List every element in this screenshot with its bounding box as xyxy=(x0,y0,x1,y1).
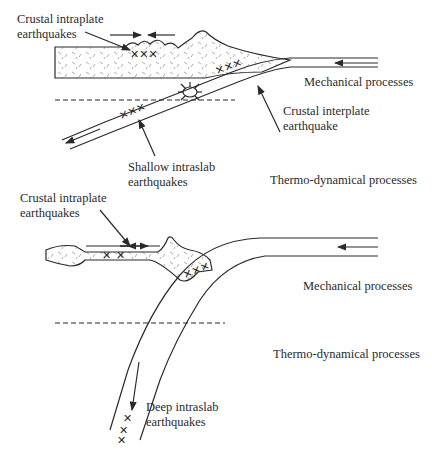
label-top-mechanical: Mechanical processes xyxy=(304,75,413,90)
label-bottom-crustal-intraplate: Crustal intraplate earthquakes xyxy=(20,191,106,221)
top-panel xyxy=(55,31,378,156)
label-top-thermo: Thermo-dynamical processes xyxy=(270,173,417,188)
svg-text:✕: ✕ xyxy=(117,434,126,447)
subduction-diagram: ✕✕✕ ✕✕✕ ✕✕✕ ✕ ✕ ✕✕✕ ✕ ✕ ✕ xyxy=(0,0,432,466)
label-top-shallow-intraslab: Shallow intraslab earthquakes xyxy=(128,160,215,190)
label-bottom-deep-intraslab: Deep intraslab earthquakes xyxy=(146,400,219,430)
svg-text:✕: ✕ xyxy=(102,249,111,262)
label-bottom-mechanical: Mechanical processes xyxy=(303,279,412,294)
label-bottom-thermo: Thermo-dynamical processes xyxy=(273,347,420,362)
label-top-crustal-intraplate: Crustal intraplate earthquakes xyxy=(17,12,103,42)
svg-text:✕: ✕ xyxy=(116,249,125,262)
label-top-crustal-interplate: Crustal interplate earthquake xyxy=(283,104,369,134)
svg-text:✕✕✕: ✕✕✕ xyxy=(130,48,158,61)
